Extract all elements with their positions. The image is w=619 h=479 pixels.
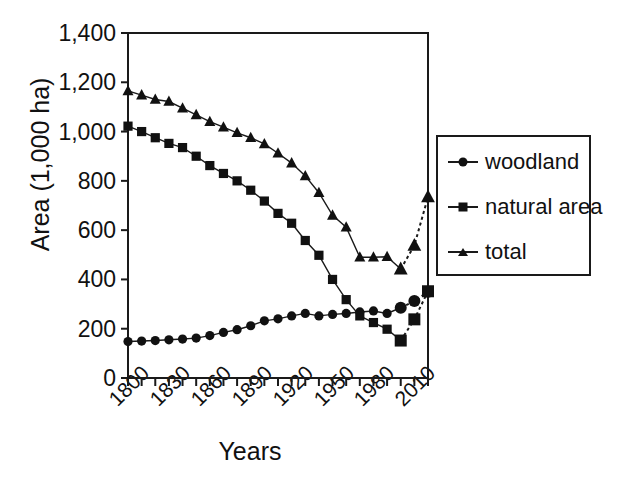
data-point-square [395, 335, 407, 347]
data-point-triangle [394, 262, 408, 275]
data-point-triangle [122, 85, 133, 95]
data-point-circle [260, 316, 269, 325]
data-point-circle [369, 306, 378, 315]
data-point-square [151, 133, 160, 142]
data-point-circle [408, 295, 420, 307]
data-point-triangle [421, 189, 435, 202]
data-point-circle [395, 302, 407, 314]
data-point-square [328, 275, 337, 284]
data-point-square [164, 139, 173, 148]
data-point-square [301, 236, 310, 245]
data-point-square [314, 251, 323, 260]
data-point-triangle [259, 138, 270, 148]
data-point-square [123, 122, 132, 131]
data-point-circle [273, 314, 282, 323]
legend-marker-circle-icon [448, 154, 478, 170]
data-point-circle [287, 311, 296, 320]
data-point-square [246, 186, 255, 195]
data-point-circle [219, 328, 228, 337]
data-point-square [355, 311, 364, 320]
data-point-triangle [327, 209, 338, 219]
data-point-square [287, 219, 296, 228]
data-point-square [137, 127, 146, 136]
legend-label-natural-area: natural area [485, 196, 602, 218]
data-point-square [232, 176, 241, 185]
data-point-circle [301, 309, 310, 318]
data-point-circle [246, 321, 255, 330]
data-point-square [260, 196, 269, 205]
data-point-triangle [354, 251, 365, 261]
data-point-circle [205, 331, 214, 340]
data-point-square [219, 169, 228, 178]
data-point-square [382, 325, 391, 334]
data-point-triangle [286, 157, 297, 167]
chart-legend: woodland natural area total [436, 135, 591, 276]
data-point-circle [137, 336, 146, 345]
legend-marker-square-icon [448, 199, 478, 215]
data-point-square [342, 295, 351, 304]
legend-item-total: total [448, 237, 527, 267]
data-point-triangle [177, 102, 188, 112]
data-point-square [205, 161, 214, 170]
data-point-circle [342, 309, 351, 318]
legend-label-total: total [485, 241, 527, 263]
data-point-square [408, 313, 420, 325]
legend-item-natural-area: natural area [448, 192, 602, 222]
data-point-triangle [382, 251, 393, 261]
chart-figure: Area (1,000 ha) Years 02004006008001,000… [0, 0, 619, 479]
data-point-triangle [407, 238, 421, 251]
data-point-square [369, 318, 378, 327]
data-point-square [422, 285, 434, 297]
series-line-total [128, 91, 401, 269]
legend-item-woodland: woodland [448, 147, 579, 177]
data-point-square [273, 209, 282, 218]
data-point-circle [232, 325, 241, 334]
data-point-circle [164, 335, 173, 344]
data-point-triangle [232, 127, 243, 137]
data-point-circle [192, 333, 201, 342]
legend-label-woodland: woodland [485, 151, 579, 173]
series-line-projected-total [401, 197, 428, 269]
legend-marker-triangle-icon [448, 244, 478, 260]
data-point-triangle [272, 147, 283, 157]
data-point-square [178, 143, 187, 152]
data-point-circle [178, 334, 187, 343]
data-point-triangle [191, 109, 202, 119]
data-point-circle [123, 337, 132, 346]
data-point-circle [151, 336, 160, 345]
data-point-triangle [341, 221, 352, 231]
data-point-circle [314, 311, 323, 320]
data-point-circle [328, 310, 337, 319]
data-point-triangle [204, 116, 215, 126]
data-point-square [192, 152, 201, 161]
data-point-circle [382, 309, 391, 318]
